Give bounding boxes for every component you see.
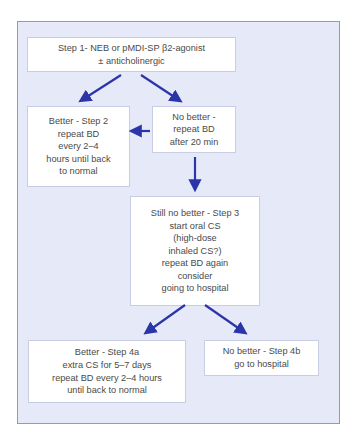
arrow-step3-to-step4a: [147, 305, 185, 332]
arrow-step1-to-step2: [82, 75, 121, 100]
arrow-step1-to-nobetter: [141, 75, 179, 100]
arrow-step3-to-step4b: [205, 305, 244, 332]
arrows: [0, 0, 357, 446]
